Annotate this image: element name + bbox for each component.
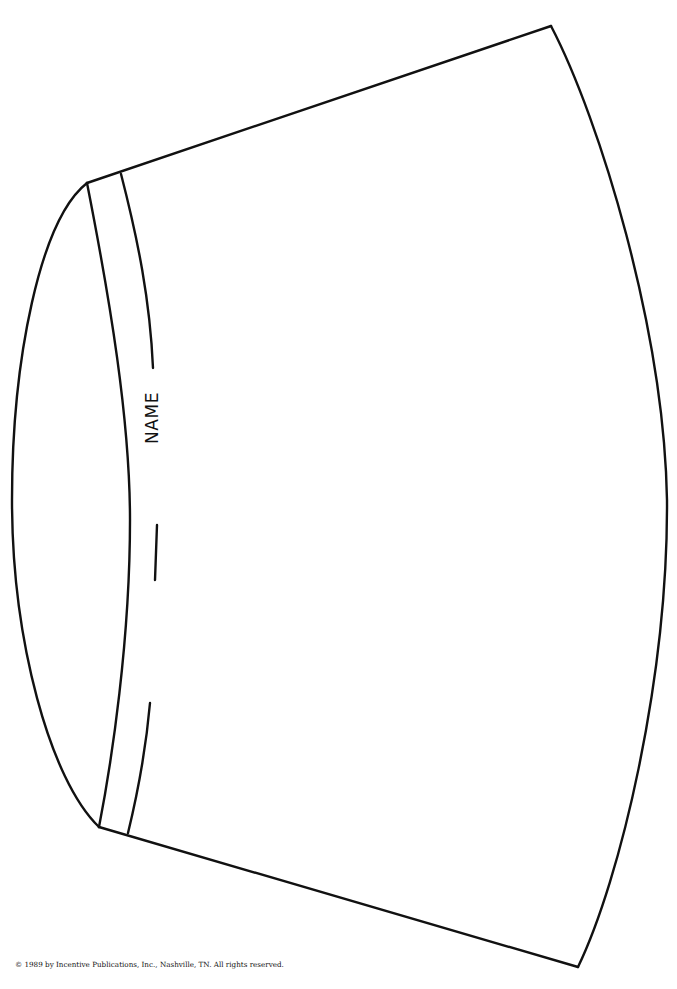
copyright-notice: © 1989 by Incentive Publications, Inc., … — [15, 960, 284, 969]
band-outer-line-upper — [121, 174, 153, 368]
left-arc-line — [12, 183, 99, 827]
hat-outline-drawing — [0, 0, 677, 989]
band-outer-line-lower — [128, 703, 150, 833]
band-outer-line-middle — [155, 525, 157, 580]
band-inner-line — [87, 183, 130, 827]
bottom-edge-line — [99, 827, 578, 967]
top-edge-line — [87, 26, 551, 183]
name-label: NAME — [142, 392, 162, 444]
hat-template-sheet: NAME © 1989 by Incentive Publications, I… — [0, 0, 677, 989]
right-arc-line — [551, 26, 667, 967]
